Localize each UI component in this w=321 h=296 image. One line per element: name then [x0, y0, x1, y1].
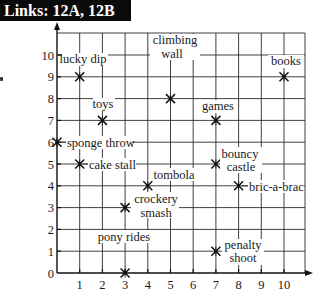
grid-lines [57, 33, 305, 273]
y-tick-label: 3 [48, 201, 54, 215]
label-lucky-dip: lucky dip [60, 52, 107, 66]
x-tick-label: 2 [99, 278, 105, 292]
y-tick-label: 7 [48, 114, 54, 128]
y-tick-label: 8 [48, 92, 54, 106]
x-tick-label: 10 [278, 278, 291, 292]
label-bric-a-brac: bric-a-brac [249, 180, 304, 194]
x-tick-label: 1 [77, 278, 83, 292]
y-tick-label: 9 [48, 70, 54, 84]
x-tick-label: 4 [145, 278, 152, 292]
label-tombola: tombola [154, 168, 195, 182]
y-tick-label: 0 [48, 267, 54, 281]
label-books: books [271, 54, 301, 68]
label-penalty: penalty [225, 238, 263, 252]
x-tick-label: 9 [258, 278, 264, 292]
label-crockery: crockery [134, 192, 178, 206]
y-tick-label: 10 [42, 49, 55, 63]
scatter-chart: 12345678910012345678910 lucky dip climbi… [0, 0, 321, 296]
label-sponge-throw: sponge throw [67, 136, 135, 150]
y-tick-label: 1 [48, 245, 54, 259]
x-tick-label: 8 [235, 278, 241, 292]
x-tick-label: 5 [167, 278, 173, 292]
x-tick-label: 6 [190, 278, 196, 292]
x-tick-label: 7 [213, 278, 219, 292]
x-tick-label: 3 [122, 278, 128, 292]
label-games: games [202, 99, 234, 113]
label-wall: wall [161, 47, 183, 61]
y-tick-label: 4 [48, 179, 55, 193]
label-castle: castle [227, 160, 256, 174]
label-toys: toys [93, 97, 114, 111]
label-climbing: climbing [153, 33, 198, 47]
label-shoot: shoot [229, 251, 257, 265]
label-bouncy: bouncy [222, 147, 260, 161]
label-pony-rides: pony rides [98, 230, 151, 244]
y-tick-label: 2 [48, 223, 54, 237]
label-smash: smash [140, 206, 172, 220]
label-cake-stall: cake stall [89, 158, 136, 172]
y-tick-label: 5 [48, 158, 54, 172]
